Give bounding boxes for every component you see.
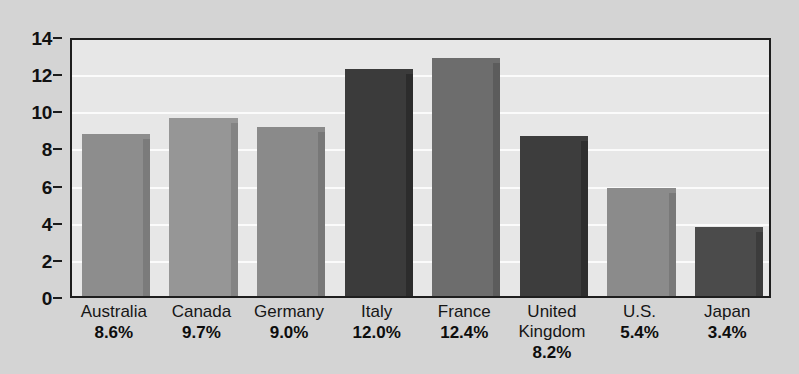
y-axis-tick-label: 0: [0, 289, 52, 308]
x-axis-labels: Australia8.6%Canada9.7%Germany9.0%Italy1…: [70, 302, 771, 374]
category-name: U.S.: [596, 302, 684, 322]
category-percent-label: 5.4%: [596, 323, 684, 343]
category-name: Australia: [70, 302, 158, 322]
bar-side-shadow: [406, 74, 413, 296]
category-percent-label: 12.4%: [421, 323, 509, 343]
plot-area: [70, 38, 771, 298]
bar: [169, 118, 237, 296]
bar: [257, 127, 325, 296]
x-axis-category-label: Germany9.0%: [245, 302, 333, 343]
y-axis-tick-label: 8: [0, 140, 52, 159]
category-percent-label: 9.7%: [158, 323, 246, 343]
category-name: Canada: [158, 302, 246, 322]
y-axis-tick-mark: [53, 111, 62, 113]
x-axis-category-label: France12.4%: [421, 302, 509, 343]
y-axis-tick-label: 10: [0, 103, 52, 122]
y-axis-tick-label: 6: [0, 177, 52, 196]
y-axis-tick-label: 2: [0, 251, 52, 270]
category-name: Italy: [333, 302, 421, 322]
bar-side-shadow: [493, 63, 500, 296]
y-axis: 02468101214: [0, 0, 62, 374]
y-axis-tick-mark: [53, 148, 62, 150]
bar-side-shadow: [318, 132, 325, 296]
category-percent-label: 3.4%: [683, 323, 771, 343]
bar-body: [607, 188, 675, 296]
x-axis-category-label: Japan3.4%: [683, 302, 771, 343]
x-axis-category-label: United Kingdom8.2%: [508, 302, 596, 363]
bars-container: [72, 40, 769, 296]
bar: [345, 69, 413, 296]
y-axis-tick-mark: [53, 260, 62, 262]
bar: [607, 188, 675, 296]
bar: [432, 58, 500, 296]
y-axis-tick-mark: [53, 74, 62, 76]
category-percent-label: 8.2%: [508, 343, 596, 363]
category-percent-label: 12.0%: [333, 323, 421, 343]
y-axis-tick-label: 4: [0, 214, 52, 233]
bar: [695, 227, 763, 296]
category-name: Japan: [683, 302, 771, 322]
category-percent-label: 9.0%: [245, 323, 333, 343]
x-axis-category-label: U.S.5.4%: [596, 302, 684, 343]
bar-side-shadow: [669, 193, 676, 296]
bar-body: [345, 69, 413, 296]
bar-body: [520, 136, 588, 296]
category-name: Germany: [245, 302, 333, 322]
y-axis-tick-label: 12: [0, 66, 52, 85]
x-axis-category-label: Italy12.0%: [333, 302, 421, 343]
category-name: France: [421, 302, 509, 322]
bar-chart: 02468101214 Australia8.6%Canada9.7%Germa…: [0, 0, 799, 374]
category-name: United Kingdom: [508, 302, 596, 342]
y-axis-tick-label: 14: [0, 29, 52, 48]
bar-side-shadow: [581, 141, 588, 296]
bar-body: [169, 118, 237, 296]
y-axis-tick-mark: [53, 186, 62, 188]
bar-side-shadow: [231, 123, 238, 296]
bar-body: [695, 227, 763, 296]
category-percent-label: 8.6%: [70, 323, 158, 343]
y-axis-tick-mark: [53, 223, 62, 225]
bar-side-shadow: [143, 139, 150, 296]
bar-side-shadow: [756, 232, 763, 296]
bar: [520, 136, 588, 296]
y-axis-tick-mark: [53, 37, 62, 39]
x-axis-category-label: Australia8.6%: [70, 302, 158, 343]
x-axis-category-label: Canada9.7%: [158, 302, 246, 343]
y-axis-tick-mark: [53, 297, 62, 299]
bar-body: [257, 127, 325, 296]
bar-body: [432, 58, 500, 296]
bar-body: [82, 134, 150, 296]
bar: [82, 134, 150, 296]
